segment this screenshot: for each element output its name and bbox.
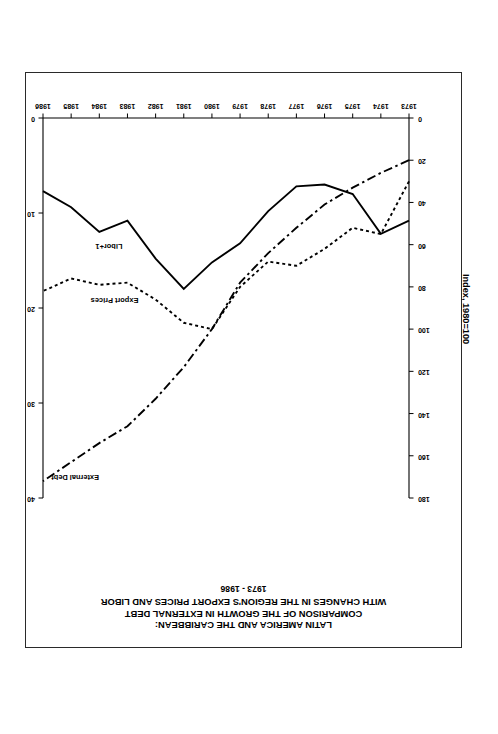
y2-tick-label: 10: [13, 211, 35, 218]
x-tick-label: 1975: [343, 103, 363, 110]
series-line: [43, 181, 409, 329]
y-tick-label: 60: [418, 243, 443, 250]
y-tick-label: 180: [418, 496, 443, 503]
x-tick-label: 1977: [286, 103, 306, 110]
document-page: LATIN AMERICA AND THE CARIBBEAN: COMPARI…: [0, 0, 498, 734]
x-tick-label: 1973: [399, 103, 419, 110]
series-annotation: Export Prices: [91, 296, 139, 305]
series-line: [43, 160, 409, 481]
x-tick-label: 1982: [146, 103, 166, 110]
series-annotation: Libor+1: [96, 242, 123, 251]
y-tick-label: 0: [418, 116, 443, 123]
series-line: [43, 185, 409, 290]
plot-canvas: [25, 72, 462, 648]
x-tick-label: 1983: [117, 103, 137, 110]
x-tick-label: 1980: [202, 103, 222, 110]
x-tick-label: 1986: [33, 103, 53, 110]
y-tick-label: 120: [418, 369, 443, 376]
y2-tick-label: 30: [13, 401, 35, 408]
x-tick-label: 1984: [89, 103, 109, 110]
y-tick-label: 140: [418, 412, 443, 419]
y-tick-label: 80: [418, 285, 443, 292]
figure-rotated-container: LATIN AMERICA AND THE CARIBBEAN: COMPARI…: [25, 72, 462, 648]
y-tick-label: 160: [418, 454, 443, 461]
chart-figure: LATIN AMERICA AND THE CARIBBEAN: COMPARI…: [25, 72, 462, 648]
series-annotation: External Debt: [51, 473, 99, 482]
x-tick-label: 1981: [174, 103, 194, 110]
x-tick-label: 1985: [61, 103, 81, 110]
x-tick-label: 1976: [315, 103, 335, 110]
y2-tick-label: 20: [13, 306, 35, 313]
x-tick-label: 1979: [230, 103, 250, 110]
y-tick-label: 40: [418, 200, 443, 207]
y-axis-title: Index, 1980=100: [461, 274, 471, 344]
y2-tick-label: 0: [13, 116, 35, 123]
y2-tick-label: 40: [13, 496, 35, 503]
x-tick-label: 1974: [371, 103, 391, 110]
y-tick-label: 20: [418, 158, 443, 165]
series-group: [43, 160, 409, 481]
x-tick-label: 1978: [258, 103, 278, 110]
y-tick-label: 100: [418, 327, 443, 334]
axes-group: [39, 114, 414, 499]
